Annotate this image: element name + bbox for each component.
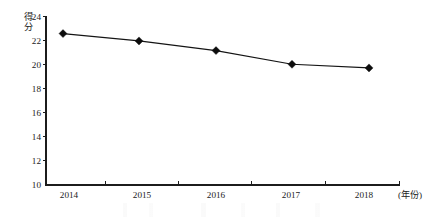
- y-tick-label-12: 12: [32, 156, 42, 166]
- y-tick-label-18: 18: [32, 84, 42, 94]
- x-tick-label-2018: 2018: [355, 190, 374, 200]
- y-tick-label-24: 24: [32, 12, 42, 22]
- x-tick-label-2016: 2016: [207, 190, 226, 200]
- y-tick-label-20: 20: [32, 60, 42, 70]
- data-point-2016: [212, 47, 220, 55]
- y-tick-label-22: 22: [32, 36, 42, 46]
- x-axis-ticks: [105, 181, 399, 186]
- y-tick-label-14: 14: [32, 132, 42, 142]
- x-axis-title: (年份): [398, 189, 422, 200]
- x-tick-label-2014: 2014: [60, 190, 79, 200]
- y-tick-label-10: 10: [32, 180, 42, 190]
- axis-lines: [46, 16, 400, 185]
- y-tick-label-16: 16: [32, 108, 42, 118]
- chart-canvas: 得 分 24 22 20 18 16 14 12 10: [0, 0, 438, 217]
- data-point-2018: [365, 64, 373, 72]
- data-point-2015: [135, 37, 143, 45]
- line-chart: 得 分 24 22 20 18 16 14 12 10: [0, 0, 438, 217]
- data-point-2014: [59, 30, 67, 38]
- x-tick-label-2017: 2017: [282, 190, 301, 200]
- x-tick-label-2015: 2015: [133, 190, 152, 200]
- data-point-2017: [288, 60, 296, 68]
- y-axis-title-line-2: 分: [24, 22, 33, 32]
